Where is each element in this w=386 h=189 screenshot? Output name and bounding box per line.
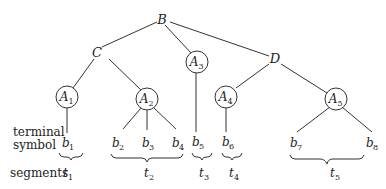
- terminal-b3: b3: [142, 136, 154, 152]
- svg-text:2: 2: [148, 99, 153, 108]
- brace-t1: [59, 153, 83, 160]
- segment-t2: t2: [144, 166, 154, 182]
- terminal-b7: b7: [290, 136, 302, 152]
- node-A4: A 4: [215, 86, 237, 108]
- segment-t4: t4: [229, 166, 239, 182]
- edge-B-C: [102, 22, 157, 47]
- edge-D-A5: [281, 64, 327, 93]
- svg-text:A: A: [328, 92, 338, 106]
- terminal-b5: b5: [192, 135, 204, 151]
- node-B: B: [156, 12, 167, 27]
- edge-C-A1: [73, 59, 94, 88]
- svg-text:A: A: [189, 55, 199, 69]
- row-label-segments: segments: [10, 166, 68, 180]
- svg-text:A: A: [59, 90, 69, 104]
- edge-A2-b2: [123, 108, 141, 129]
- svg-text:A: A: [139, 92, 149, 106]
- brace-t3: [192, 153, 212, 160]
- edge-A5-b7: [297, 107, 330, 132]
- row-label-symbol: symbol: [13, 138, 56, 152]
- row-label-terminal: terminal: [13, 125, 65, 139]
- svg-text:3: 3: [204, 173, 209, 182]
- svg-text:8: 8: [373, 143, 378, 152]
- brace-t4: [222, 153, 242, 160]
- svg-text:A: A: [218, 90, 228, 104]
- svg-text:2: 2: [149, 173, 154, 182]
- edge-C-A2: [109, 59, 141, 90]
- svg-text:7: 7: [297, 143, 302, 152]
- terminal-b1: b1: [62, 136, 74, 152]
- edge-B-D: [170, 22, 269, 56]
- segment-braces: [59, 153, 364, 164]
- svg-text:4: 4: [179, 143, 184, 152]
- node-A5: A 5: [325, 88, 347, 110]
- svg-text:2: 2: [119, 143, 124, 152]
- node-C: C: [92, 45, 102, 60]
- edge-A5-b8: [342, 107, 372, 132]
- node-A2: A 2: [136, 88, 158, 110]
- svg-text:3: 3: [149, 143, 154, 152]
- svg-text:3: 3: [198, 62, 203, 71]
- parse-tree-diagram: B C D A 1 A 2 A 3 A 4 A 5 terminal symbo…: [0, 0, 386, 189]
- segment-t3: t3: [199, 166, 209, 182]
- node-A3: A 3: [186, 51, 208, 73]
- svg-text:4: 4: [234, 173, 239, 182]
- segment-t5: t5: [330, 166, 340, 182]
- edge-A2-b4: [153, 107, 176, 129]
- svg-text:5: 5: [335, 173, 340, 182]
- edge-D-A4: [236, 64, 269, 88]
- terminal-b2: b2: [112, 136, 124, 152]
- svg-text:6: 6: [229, 142, 234, 151]
- svg-text:5: 5: [199, 142, 204, 151]
- svg-text:4: 4: [227, 97, 232, 106]
- terminal-b4: b4: [172, 136, 184, 152]
- brace-t2: [111, 154, 183, 162]
- node-D: D: [269, 51, 281, 66]
- svg-text:1: 1: [68, 173, 73, 182]
- terminal-b8: b8: [366, 136, 378, 152]
- tree-edges: [67, 22, 372, 133]
- edge-B-A3: [165, 25, 191, 53]
- svg-text:1: 1: [68, 97, 73, 106]
- terminal-b6: b6: [222, 135, 234, 151]
- svg-text:1: 1: [69, 143, 74, 152]
- svg-text:5: 5: [337, 99, 342, 108]
- brace-t5: [290, 155, 364, 164]
- node-A1: A 1: [56, 86, 78, 108]
